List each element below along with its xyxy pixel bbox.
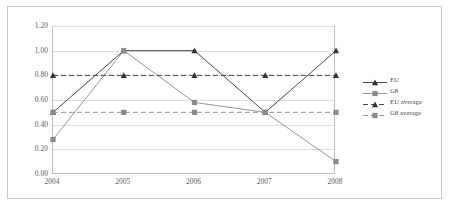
data-point-marker bbox=[121, 110, 126, 115]
legend-item[interactable]: EU average bbox=[362, 96, 446, 107]
data-point-marker bbox=[192, 100, 197, 105]
x-axis-tick-label: 2005 bbox=[101, 177, 145, 186]
legend-swatch-triangle-icon bbox=[362, 96, 388, 107]
x-axis-tick-label: 2006 bbox=[172, 177, 216, 186]
series-g8 bbox=[50, 48, 338, 164]
x-axis-tick-label: 2008 bbox=[313, 177, 357, 186]
y-axis-tick-label: 0.60 bbox=[6, 96, 48, 104]
legend-item[interactable]: EU bbox=[362, 74, 446, 85]
data-point-marker bbox=[192, 110, 197, 115]
x-axis-tick-label: 2004 bbox=[30, 177, 74, 186]
legend-label: G8 bbox=[388, 87, 398, 95]
x-axis: 20042005200620072008 bbox=[52, 177, 335, 191]
series-lines bbox=[53, 26, 336, 174]
legend-swatch-square-icon bbox=[362, 85, 388, 96]
y-axis-tick-label: 1.20 bbox=[6, 22, 48, 30]
y-axis-tick-label: 0.20 bbox=[6, 145, 48, 153]
plot-area bbox=[52, 26, 335, 174]
data-point-marker bbox=[372, 113, 377, 118]
series-line bbox=[53, 51, 336, 162]
y-axis-tick-label: 1.00 bbox=[6, 47, 48, 55]
chart-legend: EUG8EU averageG8 average bbox=[362, 74, 446, 118]
data-point-marker bbox=[50, 137, 55, 142]
legend-label: G8 average bbox=[388, 109, 421, 117]
legend-item[interactable]: G8 average bbox=[362, 107, 446, 118]
y-axis-tick-label: 0.80 bbox=[6, 71, 48, 79]
y-axis: 0.000.200.400.600.801.001.20 bbox=[4, 26, 48, 174]
legend-swatch-triangle-icon bbox=[362, 74, 388, 85]
legend-swatch-square-icon bbox=[362, 107, 388, 118]
chart-figure: 0.000.200.400.600.801.001.20 20042005200… bbox=[0, 0, 450, 206]
y-axis-tick-label: 0.40 bbox=[6, 121, 48, 129]
legend-item[interactable]: G8 bbox=[362, 85, 446, 96]
legend-label: EU bbox=[388, 76, 399, 84]
data-point-marker bbox=[263, 110, 268, 115]
data-point-marker bbox=[333, 110, 338, 115]
legend-label: EU average bbox=[388, 98, 422, 106]
series-g8-average bbox=[50, 110, 338, 115]
data-point-marker bbox=[50, 110, 55, 115]
data-point-marker bbox=[121, 48, 126, 53]
x-axis-tick-label: 2007 bbox=[242, 177, 286, 186]
data-point-marker bbox=[333, 159, 338, 164]
